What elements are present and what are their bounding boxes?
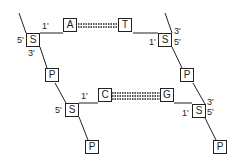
phosphate-box-left-2: P bbox=[85, 140, 99, 154]
label-5prime: 5' bbox=[17, 36, 24, 45]
label-1prime: 1' bbox=[149, 38, 156, 47]
label-5prime: 5' bbox=[207, 108, 214, 117]
base-a-box: A bbox=[63, 18, 77, 32]
phosphate-box-right-2: P bbox=[213, 140, 227, 154]
label-3prime: 3' bbox=[28, 49, 35, 58]
sugar-box-right-2: S bbox=[192, 104, 206, 118]
base-c-box: C bbox=[98, 88, 112, 102]
phosphate-box-right-1: P bbox=[180, 68, 194, 82]
label-1prime: 1' bbox=[81, 92, 88, 101]
label-5prime: 5' bbox=[55, 106, 62, 115]
sugar-box-left-2: S bbox=[65, 103, 79, 117]
base-g-box: G bbox=[160, 88, 174, 102]
sugar-box-right-1: S bbox=[158, 33, 172, 47]
label-1prime: 1' bbox=[182, 109, 189, 118]
label-1prime: 1' bbox=[42, 22, 49, 31]
sugar-box-left-1: S bbox=[26, 33, 40, 47]
label-3prime: 3' bbox=[174, 27, 181, 36]
base-t-box: T bbox=[118, 18, 132, 32]
phosphate-box-left-1: P bbox=[45, 68, 59, 82]
label-5prime: 5' bbox=[174, 38, 181, 47]
label-3prime: 3' bbox=[207, 98, 214, 107]
